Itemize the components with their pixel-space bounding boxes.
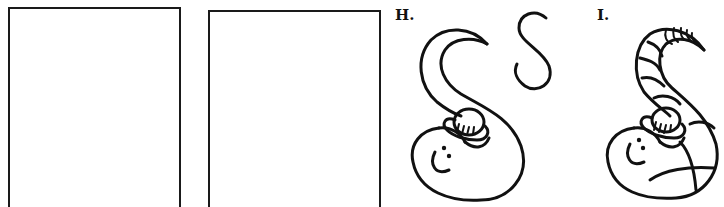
worm-drawing-step-h <box>385 0 585 207</box>
guide-letter-s <box>515 13 550 89</box>
worm-drawing-step-i <box>580 0 724 207</box>
practice-drawing-frame-2 <box>208 10 381 207</box>
practice-drawing-frame-1 <box>8 7 181 207</box>
